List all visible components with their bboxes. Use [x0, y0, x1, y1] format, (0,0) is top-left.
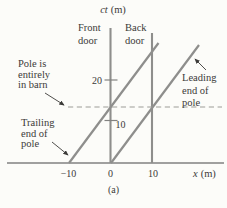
pole-in-barn-label: Pole is entirely in barn: [18, 58, 51, 90]
svg-text:door: door: [125, 35, 145, 46]
figure-caption: (a): [108, 184, 119, 196]
svg-text:Leading: Leading: [182, 72, 217, 83]
minkowski-diagram-canvas: ct(m) Front door Back door Pole is entir…: [0, 0, 227, 208]
y-axis-title: ct(m): [100, 4, 126, 16]
svg-text:entirely: entirely: [18, 69, 51, 80]
svg-text:Back: Back: [125, 22, 147, 33]
x-tick-label-0: 0: [108, 168, 113, 179]
leading-end-label: Leading end of pole: [182, 72, 217, 108]
svg-text:Front: Front: [78, 22, 101, 33]
ct-tick-label-20: 20: [92, 75, 102, 86]
ct-tick-label-10: 10: [116, 119, 126, 130]
svg-text:Trailing: Trailing: [21, 117, 55, 128]
svg-text:end of: end of: [182, 85, 209, 96]
svg-text:Pole is: Pole is: [18, 58, 46, 69]
svg-text:pole: pole: [21, 138, 39, 149]
x-tick-label-neg10: −10: [61, 168, 77, 179]
spacetime-diagram-figure: ct(m) Front door Back door Pole is entir…: [0, 0, 227, 208]
back-door-label: Back door: [125, 22, 147, 46]
trailing-end-label: Trailing end of pole: [21, 117, 55, 149]
trailing-pole-worldline: [69, 43, 159, 163]
svg-text:end of: end of: [21, 128, 48, 139]
front-door-label: Front door: [78, 22, 101, 46]
pole-in-barn-arrow: [45, 93, 64, 105]
x-axis-title: x(m): [192, 168, 216, 180]
svg-text:pole: pole: [182, 97, 200, 108]
trailing-end-arrow: [52, 142, 68, 155]
leading-end-arrow: [195, 59, 206, 70]
svg-text:in barn: in barn: [18, 79, 48, 90]
x-tick-label-10: 10: [148, 168, 158, 179]
svg-text:door: door: [78, 35, 98, 46]
